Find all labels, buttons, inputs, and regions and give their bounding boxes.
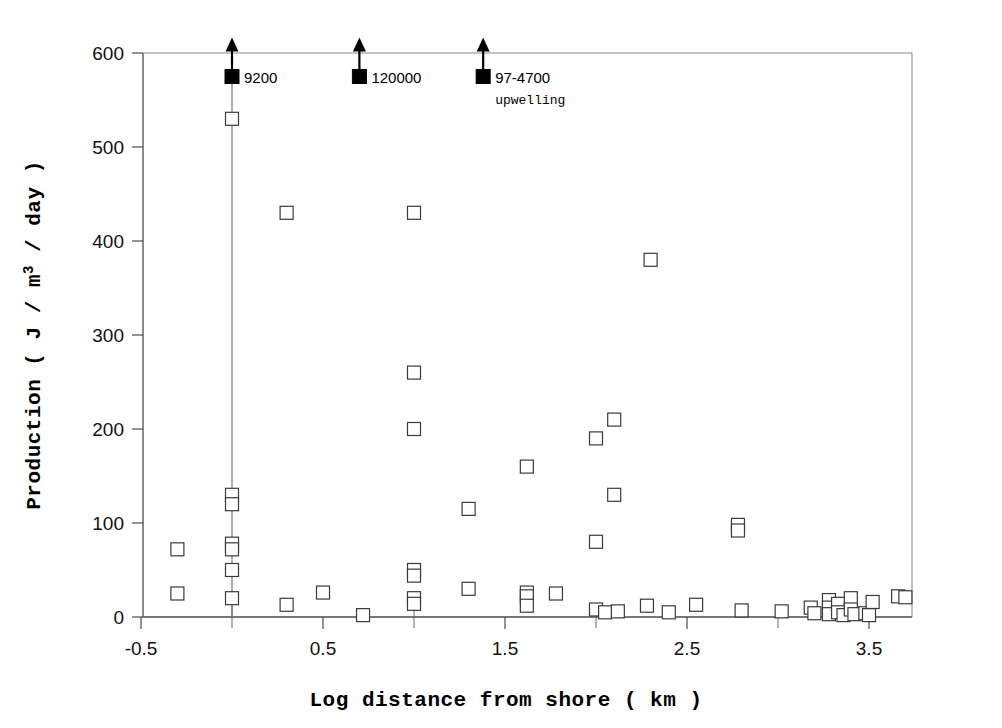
- data-point: [171, 543, 184, 556]
- data-point: [590, 432, 603, 445]
- x-tick-label-2: 1.5: [492, 638, 518, 659]
- data-point: [731, 524, 744, 537]
- offscale-label: 120000: [371, 69, 421, 86]
- data-point: [408, 206, 421, 219]
- data-point: [226, 112, 239, 125]
- offscale-marker: [476, 70, 490, 84]
- data-point: [280, 206, 293, 219]
- data-point: [280, 598, 293, 611]
- data-point: [775, 605, 788, 618]
- offscale-label: 97-4700: [495, 69, 550, 86]
- y-tick-label-1: 100: [92, 513, 124, 534]
- data-point: [863, 609, 876, 622]
- data-point: [357, 609, 370, 622]
- data-point: [611, 605, 624, 618]
- data-point: [520, 599, 533, 612]
- data-point: [599, 606, 612, 619]
- y-tick-label-4: 400: [92, 231, 124, 252]
- data-point: [608, 488, 621, 501]
- data-point: [690, 598, 703, 611]
- x-tick-label-4: 3.5: [856, 638, 882, 659]
- y-axis-title-superscript: 3: [21, 265, 37, 274]
- data-point: [462, 582, 475, 595]
- plot-canvas: -0.50.51.52.53.5 0100200300400500600 920…: [0, 0, 1002, 728]
- data-point: [226, 543, 239, 556]
- data-point: [171, 587, 184, 600]
- data-point: [608, 413, 621, 426]
- data-point: [899, 591, 912, 604]
- data-point: [408, 423, 421, 436]
- y-axis-title: Production ( J / m3 / day ): [21, 160, 46, 510]
- offscale-sublabel: upwelling: [495, 93, 565, 108]
- data-point: [408, 569, 421, 582]
- y-tick-label-0: 0: [113, 607, 124, 628]
- data-point: [226, 498, 239, 511]
- x-tick-label-1: 0.5: [310, 638, 336, 659]
- data-point: [226, 564, 239, 577]
- scatter-plot-figure: -0.50.51.52.53.5 0100200300400500600 920…: [0, 0, 1002, 728]
- y-tick-label-5: 500: [92, 137, 124, 158]
- y-axis-title-tail: / day ): [23, 160, 46, 265]
- x-axis-title: Log distance from shore ( km ): [309, 689, 702, 712]
- offscale-marker: [352, 70, 366, 84]
- y-tick-label-6: 600: [92, 43, 124, 64]
- y-tick-label-2: 200: [92, 419, 124, 440]
- data-point: [866, 595, 879, 608]
- data-point: [408, 597, 421, 610]
- data-point: [640, 599, 653, 612]
- x-tick-label-0: -0.5: [125, 638, 158, 659]
- data-point: [226, 592, 239, 605]
- data-point: [549, 587, 562, 600]
- data-point: [590, 535, 603, 548]
- data-point: [520, 460, 533, 473]
- data-point: [462, 502, 475, 515]
- data-point: [317, 586, 330, 599]
- data-point: [408, 366, 421, 379]
- offscale-marker: [225, 70, 239, 84]
- data-point: [808, 607, 821, 620]
- offscale-label: 9200: [244, 69, 277, 86]
- data-point: [735, 604, 748, 617]
- x-tick-label-3: 2.5: [674, 638, 700, 659]
- data-point: [662, 606, 675, 619]
- y-axis-title-group: Production ( J / m3 / day ): [21, 160, 46, 510]
- data-point: [644, 253, 657, 266]
- y-tick-label-3: 300: [92, 325, 124, 346]
- y-axis-title-main: Production ( J / m: [23, 274, 46, 510]
